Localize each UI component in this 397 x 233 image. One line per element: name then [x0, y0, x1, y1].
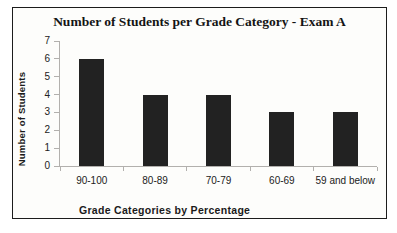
- x-tick: [60, 167, 61, 171]
- bar-90-100: [79, 59, 104, 166]
- chart-title: Number of Students per Grade Category - …: [13, 14, 386, 30]
- x-tick: [313, 167, 314, 171]
- y-tick: [54, 130, 60, 131]
- bar-70-79: [206, 95, 231, 166]
- y-tick: [54, 94, 60, 95]
- x-axis-title: Grade Categories by Percentage: [79, 204, 250, 216]
- x-tick: [123, 167, 124, 171]
- y-tick: [54, 41, 60, 42]
- x-category-label: 59 and below: [300, 175, 390, 186]
- plot-area: 0123456790-10080-8970-7960-6959 and belo…: [59, 41, 377, 167]
- y-tick-label: 1: [26, 143, 50, 153]
- y-tick-label: 5: [26, 72, 50, 82]
- x-tick: [186, 167, 187, 171]
- y-tick-label: 7: [26, 36, 50, 46]
- bar-80-89: [143, 95, 168, 166]
- y-tick-label: 0: [26, 161, 50, 171]
- x-tick: [377, 167, 378, 171]
- y-tick-label: 2: [26, 125, 50, 135]
- chart-frame: Number of Students per Grade Category - …: [12, 7, 387, 219]
- y-tick-label: 3: [26, 107, 50, 117]
- x-tick: [250, 167, 251, 171]
- bar-60-69: [269, 112, 294, 166]
- y-tick: [54, 58, 60, 59]
- bar-59 and below: [333, 112, 358, 166]
- y-tick: [54, 112, 60, 113]
- y-tick: [54, 76, 60, 77]
- y-tick-label: 4: [26, 90, 50, 100]
- bar-chart: Number of Students per Grade Category - …: [0, 0, 397, 233]
- y-tick: [54, 148, 60, 149]
- y-tick-label: 6: [26, 54, 50, 64]
